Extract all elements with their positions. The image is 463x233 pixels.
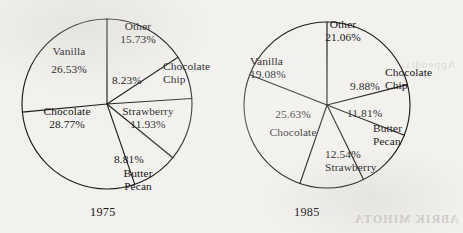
slice-label-vanilla-1985: Vanilla 19.08% bbox=[250, 55, 320, 81]
slice-name-other-1975: Other bbox=[106, 20, 170, 33]
slice-label-other-1985: Other 21.06% bbox=[311, 18, 375, 44]
slice-value-chocolate-chip-1985: 9.88% bbox=[350, 80, 398, 93]
slice-name-vanilla-1985: Vanilla bbox=[250, 55, 320, 68]
slice-label-other-1975: Other 15.73% bbox=[106, 20, 170, 46]
pie-chart-1985: Other 21.06% Chocolate Chip 9.88% 11.81%… bbox=[232, 0, 463, 233]
slice-label-strawberry-1985: 12.54% Strawberry bbox=[325, 148, 401, 174]
slice-name-chocolate-chip-1975-line2: Chip bbox=[163, 73, 233, 86]
slice-name-strawberry-1975: Strawberry bbox=[109, 105, 187, 118]
slice-value-chocolate-chip-1975: 8.23% bbox=[112, 74, 162, 87]
slice-value-other-1975: 15.73% bbox=[106, 33, 170, 46]
slice-value-vanilla-1985: 19.08% bbox=[250, 68, 320, 81]
slice-label-butter-pecan-1985: Butter Pecan bbox=[373, 122, 425, 148]
slice-value-chocolate-1985: 25.63% bbox=[254, 108, 332, 121]
slice-value-chocolate-1975: 28.77% bbox=[28, 118, 106, 131]
slice-name-chocolate-1975: Chocolate bbox=[28, 105, 106, 118]
slice-label-chocolate-1975: Chocolate 28.77% bbox=[28, 105, 106, 131]
slice-value-butter-pecan-1985: 11.81% bbox=[347, 107, 401, 120]
slice-name-butter-pecan-1985-line1: Butter bbox=[373, 122, 425, 135]
year-label-1985: 1985 bbox=[294, 205, 320, 220]
slice-value-strawberry-1985: 12.54% bbox=[325, 148, 401, 161]
year-label-1975: 1975 bbox=[90, 205, 116, 220]
slice-name-other-1985: Other bbox=[311, 18, 375, 31]
slice-name-vanilla-1975: Vanilla bbox=[32, 45, 106, 58]
pie-spoke bbox=[107, 98, 192, 104]
slice-name-butter-pecan-1975-line1: Butter bbox=[112, 167, 164, 180]
slice-name-strawberry-1985: Strawberry bbox=[325, 161, 401, 174]
slice-label-chocolate-chip-1975: Chocolate Chip bbox=[163, 60, 233, 86]
slice-value-butter-pecan-1975: 8.81% bbox=[105, 153, 153, 166]
slice-value-other-1985: 21.06% bbox=[311, 31, 375, 44]
slice-value-vanilla-1975: 26.53% bbox=[32, 63, 106, 76]
slice-name-butter-pecan-1985-line2: Pecan bbox=[373, 135, 425, 148]
slice-label-chocolate-1985: 25.63% Chocolate bbox=[254, 108, 332, 139]
slice-name-chocolate-chip-1985-line1: Chocolate bbox=[385, 66, 457, 79]
slice-label-butter-pecan-1975: Butter Pecan bbox=[112, 167, 164, 193]
slice-label-strawberry-1975: Strawberry 11.93% bbox=[109, 105, 187, 131]
slice-value-strawberry-1975: 11.93% bbox=[109, 118, 187, 131]
pie-chart-1975: Other 15.73% Chocolate Chip 8.23% Strawb… bbox=[0, 0, 232, 233]
slice-name-chocolate-1985: Chocolate bbox=[254, 126, 332, 139]
slice-label-vanilla-1975: Vanilla 26.53% bbox=[32, 45, 106, 76]
slice-name-chocolate-chip-1975-line1: Chocolate bbox=[163, 60, 233, 73]
slice-name-butter-pecan-1975-line2: Pecan bbox=[112, 180, 164, 193]
pie-chart-figure: Other 15.73% Chocolate Chip 8.23% Strawb… bbox=[0, 0, 463, 233]
